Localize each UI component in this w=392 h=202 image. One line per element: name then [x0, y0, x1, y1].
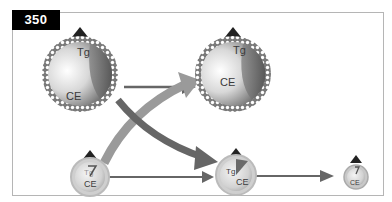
label-ce: CE: [66, 90, 81, 102]
figure-number-badge: 350: [12, 10, 60, 30]
apolipoprotein-cap-icon: [72, 27, 88, 37]
particle-large-right: Tg CE: [195, 27, 271, 112]
arrow-small-to-medium: [106, 171, 214, 183]
particle-tiny-right: CE: [344, 155, 368, 189]
lipoprotein-diagram: Tg CE Tg CE Tg CE Tg CE CE: [0, 0, 392, 202]
arrow-large-to-medium: [118, 100, 218, 170]
label-ce: CE: [84, 179, 97, 189]
arrow-medium-to-tiny: [256, 170, 334, 182]
label-tg: Tg: [233, 44, 246, 56]
label-tg: Tg: [226, 167, 235, 176]
label-ce: CE: [350, 179, 360, 186]
label-tg: Tg: [84, 168, 93, 177]
label-ce: CE: [220, 76, 235, 88]
particle-medium-center: Tg CE: [216, 148, 256, 195]
apolipoprotein-cap-icon: [350, 155, 362, 163]
apolipoprotein-cap-icon: [225, 27, 241, 37]
label-tg: Tg: [77, 46, 90, 58]
particle-large-left: Tg CE: [42, 27, 118, 112]
label-ce: CE: [236, 177, 249, 187]
